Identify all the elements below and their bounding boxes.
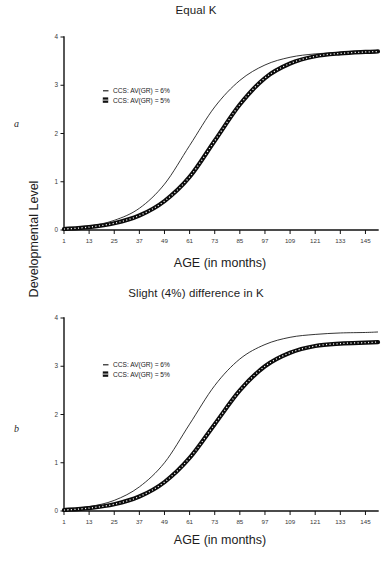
x-tick-label: 145	[360, 237, 371, 244]
x-tick-label: 49	[161, 518, 168, 525]
chart-panel-a: Equal K 01234113253749617385971091211331…	[0, 0, 392, 280]
panel-b-x-axis-label: AGE (in months)	[60, 533, 380, 547]
square-marker-icon	[103, 97, 108, 102]
x-tick-label: 97	[262, 518, 269, 525]
y-tick-label: 3	[54, 81, 58, 88]
y-tick-label: 4	[54, 314, 58, 321]
series-ccs-av-gr-6	[64, 332, 378, 510]
x-tick-label: 37	[136, 237, 143, 244]
legend-label-0: CCS: AV(GR) = 6%	[113, 361, 170, 369]
x-tick-label: 121	[310, 518, 321, 525]
y-tick-label: 0	[54, 507, 58, 514]
x-tick-label: 13	[86, 237, 93, 244]
y-tick-label: 0	[54, 226, 58, 233]
x-tick-label: 97	[262, 237, 269, 244]
x-tick-label: 61	[186, 237, 193, 244]
legend-label-0: CCS: AV(GR) = 6%	[113, 87, 170, 95]
legend-label-1: CCS: AV(GR) = 5%	[113, 371, 170, 379]
x-tick-label: 1	[62, 237, 66, 244]
x-tick-label: 121	[310, 237, 321, 244]
panel-a-x-axis-label: AGE (in months)	[60, 256, 380, 270]
y-tick-label: 3	[54, 362, 58, 369]
series-ccs-av-gr-5	[64, 51, 378, 229]
y-tick-label: 2	[54, 130, 58, 137]
x-tick-label: 13	[86, 518, 93, 525]
panel-letter-b: b	[14, 423, 19, 434]
x-tick-label: 145	[360, 518, 371, 525]
chart-panel-b: Slight (4%) difference in K 012341132537…	[0, 281, 392, 561]
x-tick-label: 49	[161, 237, 168, 244]
y-axis-label: Developmental Level	[27, 139, 41, 339]
y-tick-label: 2	[54, 411, 58, 418]
x-tick-label: 85	[236, 518, 243, 525]
y-tick-label: 4	[54, 33, 58, 40]
x-tick-label: 133	[335, 518, 346, 525]
y-tick-label: 1	[54, 459, 58, 466]
panel-a-plot: 0123411325374961738597109121133145CCS: A…	[0, 0, 392, 280]
chart-legend: CCS: AV(GR) = 6%CCS: AV(GR) = 5%	[103, 361, 170, 379]
series-ccs-av-gr-5	[64, 342, 378, 510]
legend-label-1: CCS: AV(GR) = 5%	[113, 97, 170, 105]
x-tick-label: 61	[186, 518, 193, 525]
x-tick-label: 73	[211, 518, 218, 525]
chart-legend: CCS: AV(GR) = 6%CCS: AV(GR) = 5%	[103, 87, 170, 105]
x-tick-label: 109	[285, 237, 296, 244]
y-tick-label: 1	[54, 178, 58, 185]
panel-b-plot: 0123411325374961738597109121133145CCS: A…	[0, 281, 392, 561]
panel-letter-a: a	[14, 118, 19, 129]
x-tick-label: 1	[62, 518, 66, 525]
square-marker-icon	[103, 371, 108, 376]
x-tick-label: 25	[111, 237, 118, 244]
x-tick-label: 25	[111, 518, 118, 525]
x-tick-label: 109	[285, 518, 296, 525]
x-tick-label: 37	[136, 518, 143, 525]
x-tick-label: 73	[211, 237, 218, 244]
series-ccs-av-gr-6	[64, 51, 378, 228]
x-tick-label: 133	[335, 237, 346, 244]
x-tick-label: 85	[236, 237, 243, 244]
